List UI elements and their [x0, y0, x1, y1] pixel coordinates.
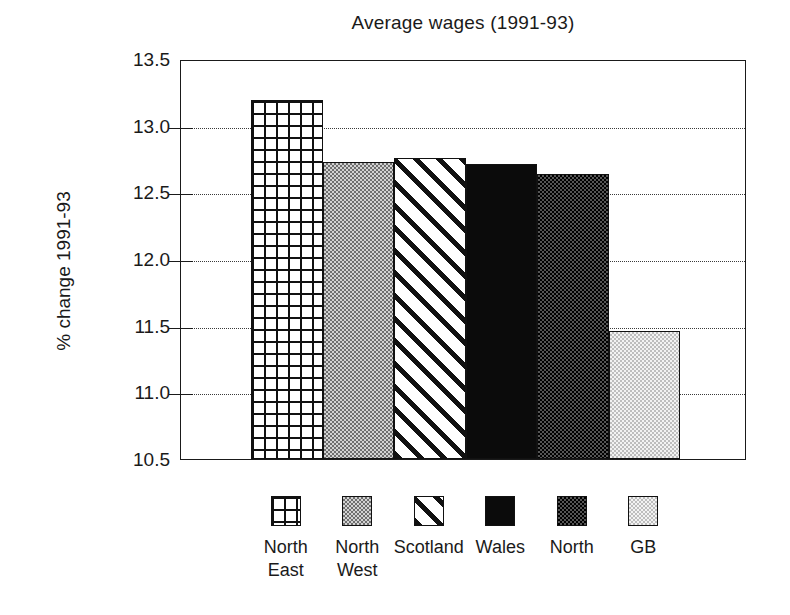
legend-label: Wales	[465, 536, 537, 559]
legend-item-wales[interactable]: Wales	[465, 496, 537, 559]
chart-figure: Average wages (1991-93) % change 1991-93…	[0, 0, 790, 615]
legend-item-north-east[interactable]: North East	[250, 496, 322, 582]
legend-label: North East	[250, 536, 322, 582]
chart-title: Average wages (1991-93)	[180, 12, 746, 34]
y-axis-tick-mark	[169, 128, 193, 129]
legend-label: North	[536, 536, 608, 559]
y-axis-tick-mark	[169, 194, 193, 195]
y-axis-tick-label: 10.5	[100, 449, 170, 471]
legend-swatch-icon	[485, 496, 515, 526]
legend-label: North West	[322, 536, 394, 582]
y-axis-tick-label: 11.0	[100, 382, 170, 404]
y-axis-tick-mark	[169, 394, 193, 395]
legend-swatch-icon	[342, 496, 372, 526]
plot-area	[180, 60, 746, 460]
y-axis-tick-label: 12.0	[100, 249, 170, 271]
y-axis-tick-mark	[169, 328, 193, 329]
bar-north	[537, 174, 609, 459]
legend-item-gb[interactable]: GB	[608, 496, 680, 559]
bar-scotland	[394, 158, 466, 459]
legend-swatch-icon	[414, 496, 444, 526]
y-axis-tick-labels: 13.513.012.512.011.511.010.5	[100, 60, 170, 460]
legend-label: GB	[608, 536, 680, 559]
bar-north-east	[251, 100, 323, 459]
legend-item-north[interactable]: North	[536, 496, 608, 559]
plot-inner	[181, 61, 745, 459]
legend-item-scotland[interactable]: Scotland	[393, 496, 465, 559]
y-axis-tick-label: 13.5	[100, 49, 170, 71]
bar-wales	[466, 164, 538, 459]
y-axis-tick-mark	[169, 261, 193, 262]
legend-item-north-west[interactable]: North West	[322, 496, 394, 582]
legend-swatch-icon	[628, 496, 658, 526]
bar-gb	[609, 331, 681, 459]
y-axis-title: % change 1991-93	[53, 141, 75, 401]
chart-legend: North EastNorth WestScotlandWalesNorthGB	[180, 496, 746, 606]
legend-label: Scotland	[393, 536, 465, 559]
y-axis-tick-label: 11.5	[100, 316, 170, 338]
legend-swatch-icon	[271, 496, 301, 526]
y-axis-tick-label: 12.5	[100, 182, 170, 204]
y-axis-tick-label: 13.0	[100, 116, 170, 138]
bar-north-west	[323, 162, 395, 459]
legend-swatch-icon	[557, 496, 587, 526]
